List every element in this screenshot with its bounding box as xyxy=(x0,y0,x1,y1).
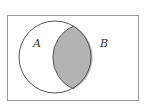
set-a-label: A xyxy=(32,37,41,50)
set-b-label: B xyxy=(99,37,108,50)
venn-diagram: A B xyxy=(0,0,147,108)
